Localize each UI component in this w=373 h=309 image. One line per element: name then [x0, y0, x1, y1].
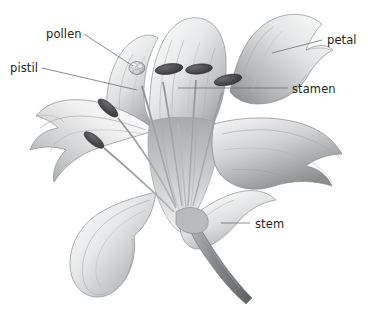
lily-anatomy-diagram: pollen pistil petal stamen stem: [0, 0, 373, 309]
receptacle: [176, 208, 208, 234]
label-pollen: pollen: [46, 27, 82, 41]
label-pistil: pistil: [10, 61, 38, 75]
label-stem: stem: [255, 217, 284, 231]
lily-illustration: pollen pistil petal stamen stem: [0, 0, 373, 309]
label-stamen: stamen: [292, 82, 336, 96]
lower-left-petal: [70, 192, 156, 297]
flower-artwork: [30, 14, 342, 304]
label-petal: petal: [327, 33, 357, 47]
right-petal: [212, 118, 342, 189]
stigma: [129, 62, 145, 75]
